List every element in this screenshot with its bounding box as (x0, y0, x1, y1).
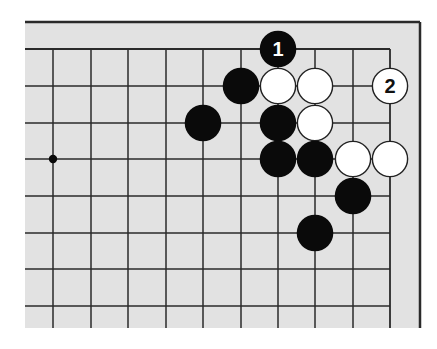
white-stone (335, 141, 370, 176)
black-stone-icon (335, 178, 372, 215)
black-stone (297, 215, 334, 252)
black-stone-icon (223, 68, 260, 105)
white-stone: 2 (372, 68, 407, 103)
black-stone (260, 141, 297, 178)
black-stone (223, 68, 260, 105)
white-stone (297, 68, 332, 103)
black-stone-icon (297, 215, 334, 252)
white-stone-icon (297, 105, 332, 140)
black-stone (335, 178, 372, 215)
move-number-label: 2 (384, 75, 395, 97)
white-stone-icon (372, 141, 407, 176)
black-stone (185, 105, 222, 142)
white-stone-icon (297, 68, 332, 103)
black-stone-icon (260, 141, 297, 178)
star-points (49, 155, 57, 163)
white-stone-icon (335, 141, 370, 176)
go-diagram: 12 (0, 0, 437, 349)
black-stone-icon (297, 141, 334, 178)
black-stone-icon (260, 105, 297, 142)
go-board: 12 (0, 0, 437, 349)
white-stone (260, 68, 295, 103)
black-stone-icon (185, 105, 222, 142)
white-stone (297, 105, 332, 140)
black-stone: 1 (260, 31, 297, 68)
move-number-label: 1 (272, 38, 283, 60)
star-point-icon (49, 155, 57, 163)
white-stone-icon (260, 68, 295, 103)
black-stone (260, 105, 297, 142)
white-stone (372, 141, 407, 176)
black-stone (297, 141, 334, 178)
